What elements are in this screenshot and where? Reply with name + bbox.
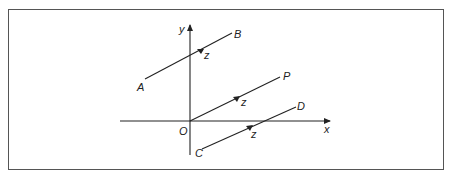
point-d-label: D [297, 100, 305, 112]
direction-label-ab: z [203, 49, 210, 61]
x-axis-label: x [323, 123, 330, 135]
direction-label-op: z [240, 96, 247, 108]
y-axis-label: y [178, 23, 186, 35]
origin-label: O [179, 125, 188, 137]
vector-diagram: x y O A B z P z C D z [0, 0, 450, 178]
point-a-label: A [136, 81, 144, 93]
segment-ab [145, 33, 232, 79]
point-p-label: P [283, 70, 291, 82]
direction-label-cd: z [250, 128, 257, 140]
point-b-label: B [234, 28, 241, 40]
point-c-label: C [195, 147, 203, 159]
